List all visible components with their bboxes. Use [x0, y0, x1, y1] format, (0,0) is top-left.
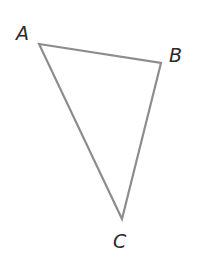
vertex-label-a: A — [14, 22, 29, 44]
vertex-label-c: C — [113, 230, 127, 252]
triangle-abc — [39, 44, 161, 219]
triangle-diagram: A B C — [0, 0, 203, 264]
vertex-label-b: B — [169, 44, 182, 66]
